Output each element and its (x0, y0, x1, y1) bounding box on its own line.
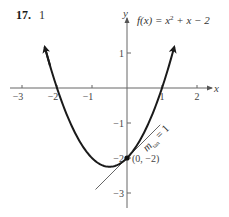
x-tick-label: 2 (195, 91, 200, 102)
y-tick-label: −1 (113, 118, 124, 129)
slope-label: mtan = 1 (140, 122, 173, 155)
svg-text:mtan = 1: mtan = 1 (140, 122, 173, 155)
point-label: (0, −2) (132, 153, 159, 165)
function-label: f(x) = x2 + x − 2 (137, 14, 210, 27)
annotations: (0, −2)mtan = 1f(x) = x2 + x − 2 (124, 14, 210, 165)
tangent-point-dot (124, 155, 129, 160)
y-tick-label: −3 (113, 188, 124, 199)
x-tick-label: −2 (48, 91, 59, 102)
y-tick-label: 1 (119, 48, 124, 59)
x-tick-label: −3 (13, 91, 24, 102)
x-axis-label: x (213, 82, 219, 94)
axis-ticks: −3−2−1121−1−2−3 (13, 48, 200, 199)
function-graph: xy −3−2−1121−1−2−3 (0, −2)mtan = 1f(x) =… (0, 0, 229, 217)
y-axis-label: y (122, 7, 128, 19)
x-tick-label: −1 (83, 91, 94, 102)
axes: xy (10, 7, 219, 208)
